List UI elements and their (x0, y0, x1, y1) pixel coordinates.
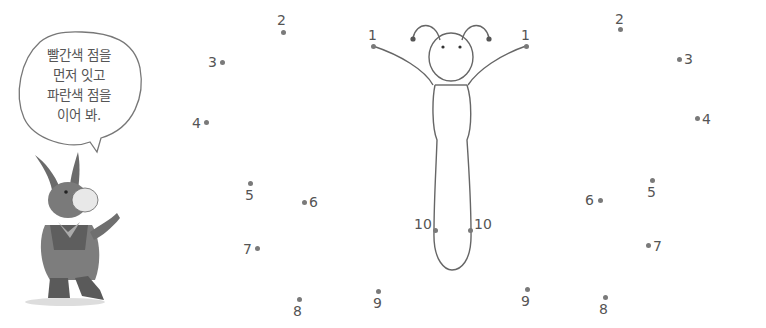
dot-label: 6 (309, 195, 318, 209)
eye-left (441, 45, 444, 48)
dot-label: 4 (702, 112, 711, 126)
dot-left-4[interactable] (204, 120, 209, 125)
antenna-dot-left (410, 36, 415, 41)
dot-right-3[interactable] (677, 57, 682, 62)
dot-label: 9 (521, 294, 530, 308)
dot-left-6[interactable] (302, 200, 307, 205)
dot-left-7[interactable] (255, 246, 260, 251)
instruction-line: 빨간색 점을 (24, 45, 134, 65)
dot-label: 10 (474, 217, 492, 231)
dot-label: 3 (208, 55, 217, 69)
dot-right-9[interactable] (525, 287, 530, 292)
dot-label: 8 (599, 302, 608, 316)
connect-the-dots-worksheet: 빨간색 점을 먼저 잇고 파란색 점을 이어 봐. 12345678910 12… (0, 0, 766, 328)
dot-label: 1 (368, 28, 377, 42)
dot-right-10[interactable] (468, 228, 473, 233)
dot-label: 10 (414, 217, 432, 231)
dot-right-1[interactable] (524, 44, 529, 49)
dot-label: 1 (521, 28, 530, 42)
dot-left-10[interactable] (433, 228, 438, 233)
antenna-dot-right (486, 36, 491, 41)
dot-right-7[interactable] (646, 243, 651, 248)
dot-label: 8 (293, 304, 302, 318)
dot-left-9[interactable] (376, 289, 381, 294)
dot-right-5[interactable] (650, 178, 655, 183)
instruction-text: 빨간색 점을 먼저 잇고 파란색 점을 이어 봐. (24, 45, 134, 125)
dot-left-8[interactable] (297, 297, 302, 302)
dot-left-1[interactable] (371, 44, 376, 49)
dot-label: 6 (585, 193, 594, 207)
dot-label: 2 (277, 13, 286, 27)
dot-right-6[interactable] (598, 198, 603, 203)
dot-right-2[interactable] (618, 27, 623, 32)
dot-label: 5 (245, 188, 254, 202)
dot-right-8[interactable] (603, 295, 608, 300)
dot-label: 4 (192, 116, 201, 130)
dot-left-3[interactable] (220, 60, 225, 65)
dot-right-4[interactable] (695, 116, 700, 121)
dot-label: 7 (243, 242, 252, 256)
butterfly-body-outline (373, 26, 526, 271)
dot-label: 3 (684, 52, 693, 66)
dot-label: 9 (373, 296, 382, 310)
eye-right (458, 45, 461, 48)
instruction-line: 이어 봐. (24, 105, 134, 125)
dot-label: 2 (615, 12, 624, 26)
instruction-line: 파란색 점을 (24, 85, 134, 105)
instruction-line: 먼저 잇고 (24, 65, 134, 85)
dot-left-5[interactable] (248, 181, 253, 186)
donkey-character (25, 152, 120, 306)
dot-label: 7 (653, 239, 662, 253)
dot-label: 5 (647, 185, 656, 199)
dot-left-2[interactable] (281, 30, 286, 35)
